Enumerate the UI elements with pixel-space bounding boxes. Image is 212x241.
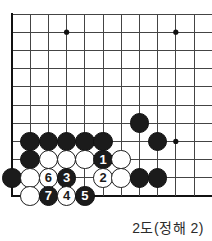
stone-black[interactable] [148,168,168,188]
star-point [64,30,69,35]
stone-black[interactable] [93,132,113,152]
stone-move-number: 6 [45,171,52,184]
stone-white[interactable] [20,168,40,188]
stone-white[interactable] [20,186,40,206]
stone-move-number: 7 [45,189,52,202]
stone-move-3[interactable]: 3 [57,168,77,188]
stone-move-number: 2 [99,171,106,184]
stone-black[interactable] [39,132,59,152]
stone-move-4[interactable]: 4 [57,186,77,206]
stone-black[interactable] [130,168,150,188]
stone-black[interactable] [130,113,150,133]
stone-white[interactable] [111,168,131,188]
stone-black[interactable] [20,150,40,170]
stone-white[interactable] [111,150,131,170]
stone-black[interactable] [20,132,40,152]
stone-white[interactable] [75,150,95,170]
stone-move-7[interactable]: 7 [39,186,59,206]
stone-move-number: 4 [63,189,70,202]
star-point [173,30,178,35]
stone-move-6[interactable]: 6 [39,168,59,188]
stone-move-number: 1 [99,153,106,166]
star-point [173,139,178,144]
stone-black[interactable] [75,132,95,152]
stone-move-5[interactable]: 5 [75,186,95,206]
stone-move-2[interactable]: 2 [93,168,113,188]
stone-move-number: 5 [81,189,88,202]
stone-black[interactable] [2,168,22,188]
go-diagram-figure: 1632745 2도(정해 2) [0,0,212,241]
figure-caption: 2도(정해 2) [132,217,204,237]
stone-move-number: 3 [63,171,70,184]
stone-move-1[interactable]: 1 [93,150,113,170]
